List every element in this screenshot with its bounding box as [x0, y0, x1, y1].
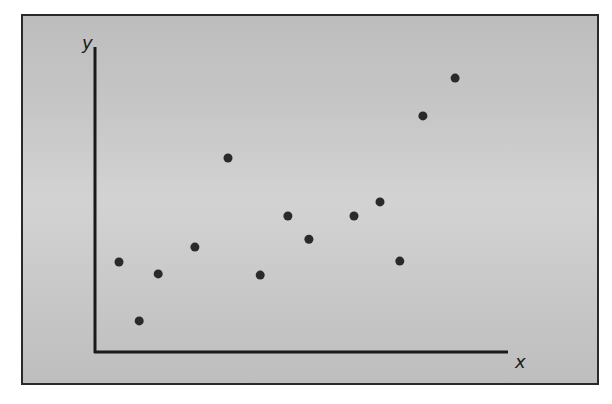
data-point [418, 111, 427, 120]
data-point [135, 316, 144, 325]
scatter-plot: y x [0, 0, 612, 404]
data-point [451, 74, 460, 83]
data-point [395, 257, 404, 266]
data-point [115, 258, 124, 267]
data-point [256, 271, 265, 280]
data-point [224, 154, 233, 163]
y-axis-label: y [81, 32, 93, 53]
data-point [350, 212, 359, 221]
data-point [283, 212, 292, 221]
x-axis-label: x [514, 351, 526, 372]
data-point [376, 197, 385, 206]
data-point [154, 269, 163, 278]
data-points [115, 74, 460, 326]
data-point [190, 243, 199, 252]
data-point [304, 235, 313, 244]
